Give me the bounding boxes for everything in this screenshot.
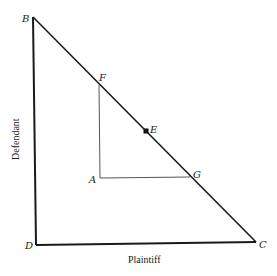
label-E: E: [149, 124, 158, 135]
line-FA: [99, 85, 100, 178]
label-B: B: [21, 13, 29, 24]
label-A: A: [88, 174, 96, 185]
bargaining-diagram: B D C F A G E Plaintiff Defendant: [0, 0, 277, 276]
label-C: C: [259, 239, 267, 250]
y-axis-label: Defendant: [10, 118, 21, 160]
line-DC: [36, 242, 256, 245]
x-axis-label: Plaintiff: [128, 254, 161, 265]
line-AG: [100, 177, 190, 178]
line-BD: [33, 17, 36, 245]
point-E-marker: [144, 129, 149, 134]
label-G: G: [193, 169, 201, 180]
label-F: F: [98, 72, 107, 83]
label-D: D: [24, 240, 33, 251]
